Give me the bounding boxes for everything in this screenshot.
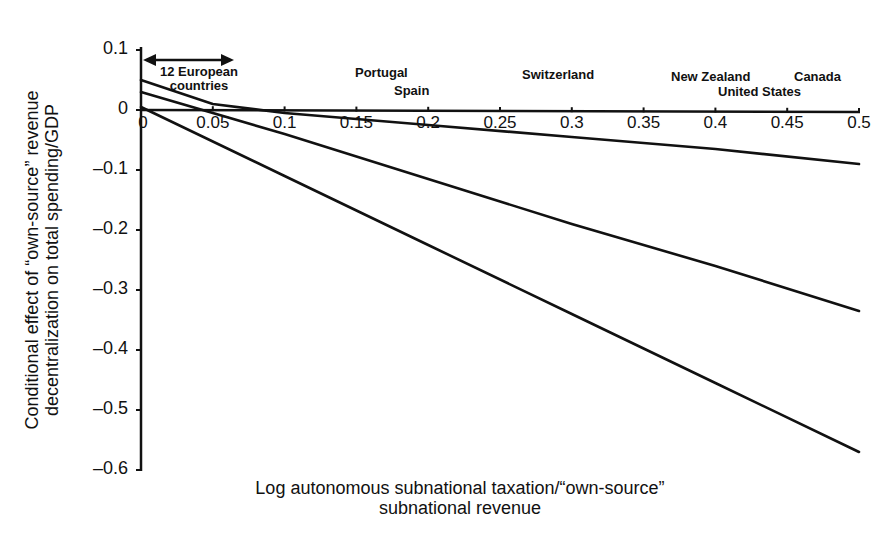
x-tick-label: 0.25 bbox=[475, 113, 525, 133]
y-tick-label: –0.1 bbox=[68, 158, 128, 179]
plot-area bbox=[0, 0, 894, 542]
annotation-switzerland: Switzerland bbox=[522, 67, 594, 82]
y-tick-label: 0.1 bbox=[68, 38, 128, 59]
annotation-portugal: Portugal bbox=[355, 65, 408, 80]
y-axis-label: Conditional effect of “own-source” reven… bbox=[2, 20, 82, 500]
series-line bbox=[141, 107, 859, 452]
x-tick-label: 0.2 bbox=[403, 113, 453, 133]
annotation-united-states: United States bbox=[718, 84, 801, 99]
x-tick-label: 0.1 bbox=[260, 113, 310, 133]
chart: Conditional effect of “own-source” reven… bbox=[0, 0, 894, 542]
annotation-spain: Spain bbox=[394, 83, 429, 98]
x-tick-label: 0.5 bbox=[834, 113, 884, 133]
y-axis-label-line1: Conditional effect of “own-source” reven… bbox=[22, 91, 42, 430]
x-tick-label: 0.4 bbox=[690, 113, 740, 133]
y-tick-label: –0.3 bbox=[68, 278, 128, 299]
x-axis-label: Log autonomous subnational taxation/“own… bbox=[200, 478, 720, 518]
x-axis-label-line2: subnational revenue bbox=[200, 498, 720, 518]
y-tick-label: –0.2 bbox=[68, 218, 128, 239]
y-axis-label-line2: decentralization on total spending/GDP bbox=[42, 91, 62, 430]
x-axis-label-line1: Log autonomous subnational taxation/“own… bbox=[200, 478, 720, 498]
y-tick-label: –0.5 bbox=[68, 398, 128, 419]
x-tick-label: 0.15 bbox=[331, 113, 381, 133]
series-lines bbox=[141, 80, 859, 452]
y-tick-label: –0.4 bbox=[68, 338, 128, 359]
x-tick-label: 0.35 bbox=[619, 113, 669, 133]
y-tick-label: –0.6 bbox=[68, 458, 128, 479]
annotation-new-zealand: New Zealand bbox=[671, 69, 750, 84]
x-tick-label: 0.3 bbox=[547, 113, 597, 133]
x-tick-label: 0.45 bbox=[762, 113, 812, 133]
annotation-12-european-countries: 12 European countries bbox=[160, 65, 238, 93]
x-tick-label: 0 bbox=[118, 113, 168, 133]
annotation-canada: Canada bbox=[794, 69, 841, 84]
x-tick-label: 0.05 bbox=[188, 113, 238, 133]
